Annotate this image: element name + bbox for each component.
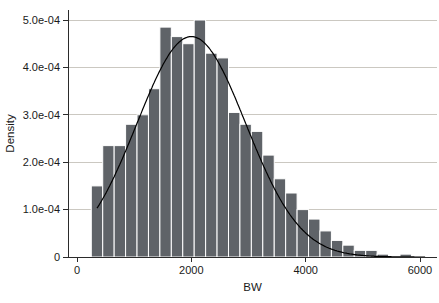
x-tick-label: 0 [74,264,80,276]
y-tick-label: 5.0e-04 [23,14,60,26]
histogram-bar [194,20,205,257]
y-axis-title: Density [4,114,16,153]
histogram-bar [228,112,239,257]
histogram-bar [217,58,228,257]
histogram-bar [160,27,171,257]
histogram-bar [286,193,297,257]
x-tick-label: 2000 [179,264,203,276]
y-tick-label: 1.0e-04 [23,203,60,215]
histogram-bar [343,245,354,257]
histogram-bar [263,155,274,257]
histogram-bar [137,115,148,257]
x-tick-label: 6000 [408,264,432,276]
y-tick-label: 3.0e-04 [23,109,60,121]
histogram-bar [114,146,125,257]
y-tick-label: 0 [54,251,60,263]
histogram-bar [126,124,137,257]
x-tick-label: 4000 [293,264,317,276]
histogram-bar [206,53,217,257]
histogram-bar [183,44,194,257]
y-tick-label: 4.0e-04 [23,61,60,73]
histogram-bar [240,124,251,257]
histogram-figure: 01.0e-042.0e-043.0e-044.0e-045.0e-040200… [0,0,439,303]
histogram-bar [91,186,102,257]
histogram-bar [148,89,159,257]
histogram-bar [171,37,182,257]
histogram-bar [309,219,320,257]
x-axis-title: BW [243,281,262,293]
y-tick-label: 2.0e-04 [23,156,60,168]
chart-canvas: 01.0e-042.0e-043.0e-044.0e-045.0e-040200… [0,0,439,303]
histogram-bar [331,240,342,257]
histogram-bar [103,146,114,257]
